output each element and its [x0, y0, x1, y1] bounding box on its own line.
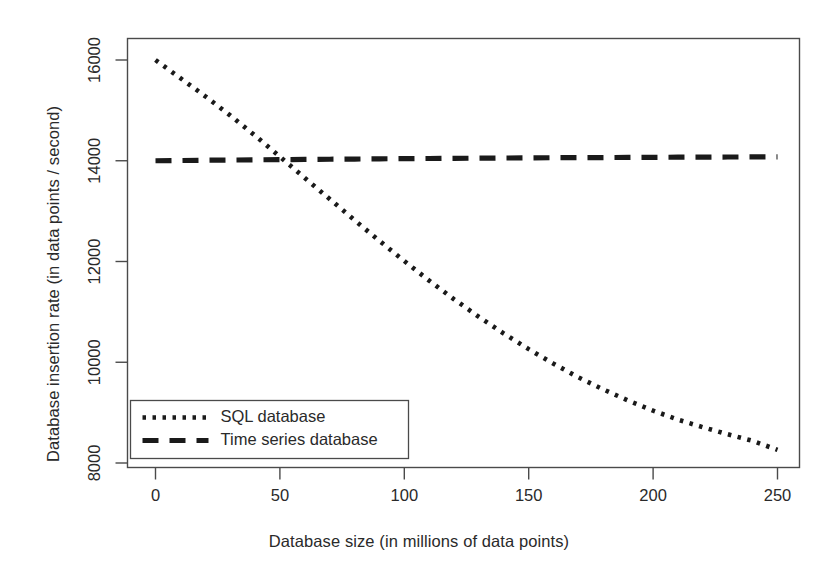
legend-label-1: SQL database: [221, 407, 326, 426]
chart-figure: Database insertion rate (in data points …: [0, 0, 838, 583]
data-series-layer: [156, 60, 778, 450]
y-tick-label: 16000: [85, 37, 104, 83]
series-line-2: [156, 157, 778, 161]
y-axis-title: Database insertion rate (in data points …: [44, 106, 63, 462]
y-tick-label: 14000: [85, 138, 104, 184]
x-tick-label: 50: [230, 486, 330, 505]
y-tick-label: 8000: [85, 445, 104, 482]
x-axis-title: Database size (in millions of data point…: [0, 532, 838, 551]
series-line-1: [156, 60, 778, 450]
legend-label-2: Time series database: [221, 430, 378, 449]
x-tick-label: 100: [354, 486, 454, 505]
x-tick-label: 0: [106, 486, 206, 505]
y-tick-label: 10000: [85, 339, 104, 385]
x-tick-label: 150: [479, 486, 579, 505]
y-tick-label: 12000: [85, 239, 104, 285]
x-tick-label: 250: [728, 486, 828, 505]
x-tick-label: 200: [603, 486, 703, 505]
y-axis-ticks: [116, 60, 128, 463]
x-axis-ticks: [156, 468, 778, 480]
